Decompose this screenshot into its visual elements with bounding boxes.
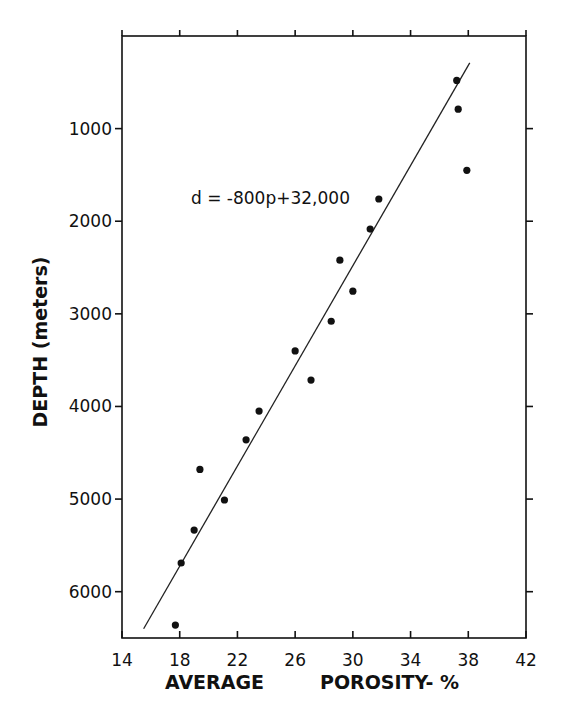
x-tick-label: 14 <box>111 650 133 670</box>
data-point <box>463 167 470 174</box>
data-point <box>172 621 179 628</box>
data-point <box>255 407 262 414</box>
y-tick-label: 4000 <box>69 396 112 416</box>
y-axis-title: DEPTH (meters) <box>29 257 51 428</box>
y-tick-label: 1000 <box>69 119 112 139</box>
data-point <box>453 77 460 84</box>
data-point <box>455 106 462 113</box>
regression-line <box>144 63 470 629</box>
data-point <box>196 466 203 473</box>
data-point <box>375 195 382 202</box>
data-point <box>336 257 343 264</box>
x-tick-label: 42 <box>515 650 537 670</box>
data-point <box>328 318 335 325</box>
data-point <box>292 347 299 354</box>
x-tick-label: 34 <box>400 650 422 670</box>
data-point <box>178 559 185 566</box>
plot-frame <box>122 36 526 638</box>
y-tick-label: 3000 <box>69 304 112 324</box>
x-tick-label: 26 <box>284 650 306 670</box>
data-point <box>349 288 356 295</box>
x-tick-label: 30 <box>342 650 364 670</box>
data-point <box>242 436 249 443</box>
x-tick-label: 38 <box>457 650 479 670</box>
x-axis-title-left: AVERAGE <box>165 671 264 693</box>
x-axis-title-right: POROSITY- % <box>320 671 459 693</box>
data-points <box>172 77 471 629</box>
data-point <box>191 527 198 534</box>
fit-line <box>144 63 470 629</box>
y-tick-label: 6000 <box>69 582 112 602</box>
x-tick-label: 18 <box>169 650 191 670</box>
equation-annotation: d = -800p+32,000 <box>191 188 350 208</box>
data-point <box>367 226 374 233</box>
x-tick-label: 22 <box>227 650 249 670</box>
porosity-depth-chart: 1418222630343842 10002000300040005000600… <box>0 0 564 718</box>
data-point <box>307 376 314 383</box>
data-point <box>221 496 228 503</box>
y-tick-label: 2000 <box>69 211 112 231</box>
y-tick-label: 5000 <box>69 489 112 509</box>
